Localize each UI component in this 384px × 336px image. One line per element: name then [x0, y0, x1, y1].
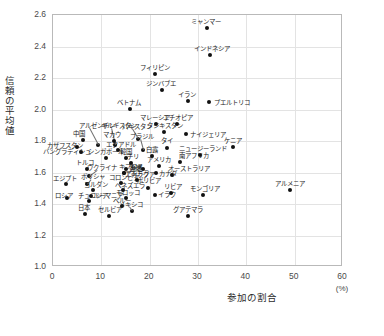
gridline-vertical	[101, 15, 102, 265]
gridline-vertical	[295, 15, 296, 265]
data-point	[162, 130, 166, 134]
data-point-label: ケニア	[224, 138, 242, 144]
data-point	[146, 186, 150, 190]
y-axis-title: 信頼の平均値	[2, 76, 16, 136]
data-point-label: セルビア	[98, 207, 122, 213]
data-point-label: 日本	[78, 205, 90, 211]
data-point-label: インドネシア	[194, 46, 230, 52]
data-point-label: ジンバブエ	[146, 81, 176, 87]
data-point-label: エチオピア	[163, 115, 193, 121]
data-point	[231, 145, 235, 149]
data-point-label: ミャンマー	[191, 19, 221, 25]
data-point-label: ブラジル	[130, 134, 154, 140]
data-point	[205, 26, 209, 30]
data-point	[186, 99, 190, 103]
data-point-label: エジプト	[53, 176, 77, 182]
data-point-label: チリ	[127, 154, 139, 160]
x-tick-label: 20	[135, 271, 163, 281]
x-tick-label: 50	[280, 271, 308, 281]
y-tick-label: 2.6	[20, 9, 46, 19]
x-tick-label: 10	[86, 271, 114, 281]
data-point-label: プエルトリコ	[214, 100, 250, 106]
x-tick-label: 40	[231, 271, 259, 281]
data-point	[208, 53, 212, 57]
data-point	[157, 164, 161, 168]
data-point	[169, 191, 173, 195]
data-point	[87, 199, 91, 203]
data-point-label: アルメニア	[275, 181, 305, 187]
data-point	[107, 214, 111, 218]
y-tick-label: 2.4	[20, 41, 46, 51]
data-point	[186, 214, 190, 218]
data-point-label: ウクライナ	[87, 165, 117, 171]
gridline-horizontal	[53, 110, 341, 111]
gridline-horizontal	[53, 236, 341, 237]
data-point	[104, 156, 108, 160]
data-point-label: ベトナム	[117, 100, 141, 106]
y-tick-label: 2.0	[20, 104, 46, 114]
data-point	[135, 178, 139, 182]
x-tick-label: 30	[183, 271, 211, 281]
data-point-label: モンゴリア	[190, 186, 220, 192]
data-point	[178, 160, 182, 164]
data-point-label: リビア	[164, 184, 182, 190]
data-point	[165, 146, 169, 150]
data-point-label: フィリピン	[140, 65, 170, 71]
x-axis-title: 参加の割合	[227, 290, 277, 304]
data-point-label: ニカラグア	[125, 172, 155, 178]
scatter-chart: ミャンマーインドネシアフィリピンジンバブエイランプエルトリコベトナムケニアマレー…	[0, 0, 384, 336]
data-point-label: 中国	[73, 131, 85, 137]
y-tick-label: 2.2	[20, 72, 46, 82]
data-point-label: チュニジア	[78, 193, 108, 199]
data-point-label: ボリビア	[137, 178, 161, 184]
x-tick-label: 60	[328, 271, 356, 281]
data-point-label: 南アフリカ	[179, 153, 209, 159]
data-point	[160, 88, 164, 92]
y-tick-label: 1.6	[20, 167, 46, 177]
data-point	[83, 212, 87, 216]
data-point-label: タジキスタン	[147, 123, 183, 129]
x-tick-label: 0	[38, 271, 66, 281]
x-axis-unit: (%)	[328, 284, 356, 293]
data-point	[184, 132, 188, 136]
data-point-label: ヨルダン	[84, 182, 108, 188]
data-point-label: ポリシャ	[81, 174, 105, 180]
data-point-label: アメリカ	[147, 157, 171, 163]
data-point-label: オーストラリア	[168, 166, 210, 172]
data-point-label: グアテマラ	[173, 207, 203, 213]
gridline-vertical	[246, 15, 247, 265]
label-leader-line	[89, 127, 99, 144]
data-point	[153, 193, 157, 197]
data-point	[201, 193, 205, 197]
gridline-horizontal	[53, 204, 341, 205]
data-point-label: ナイジェリア	[190, 132, 226, 138]
data-point-label: モロッコ	[116, 190, 140, 196]
data-point-label: バングラディシュ	[43, 149, 91, 155]
data-point	[64, 182, 68, 186]
y-tick-label: 1.0	[20, 261, 46, 271]
data-point-label: ロシア	[55, 193, 73, 199]
y-tick-label: 1.4	[20, 198, 46, 208]
data-point-label: シンガポール	[88, 149, 124, 155]
gridline-horizontal	[53, 78, 341, 79]
data-point	[153, 72, 157, 76]
y-tick-label: 1.2	[20, 230, 46, 240]
plot-area: ミャンマーインドネシアフィリピンジンバブエイランプエルトリコベトナムケニアマレー…	[52, 14, 342, 266]
data-point-label: イラン	[178, 92, 196, 98]
data-point	[207, 100, 211, 104]
y-tick-label: 1.8	[20, 135, 46, 145]
data-point-label: タイ	[161, 138, 173, 144]
data-point-label: 白露	[146, 147, 158, 153]
data-point-label: マカウ	[103, 132, 121, 138]
data-point	[170, 173, 174, 177]
data-point	[288, 188, 292, 192]
